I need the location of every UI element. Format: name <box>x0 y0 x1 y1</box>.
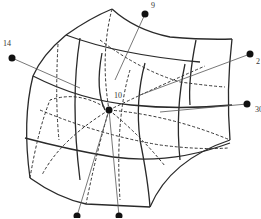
node-10-label: 10 <box>114 92 122 100</box>
node-10-dot <box>106 107 113 114</box>
node-9-label: 9 <box>151 2 155 10</box>
node-30-dot <box>244 101 251 108</box>
leader-lines <box>12 14 250 216</box>
node-bottom-left-dot <box>74 213 81 219</box>
node-30-label: 30 <box>255 106 261 114</box>
node-14-label: 14 <box>3 40 11 48</box>
node-bottom-right-dot <box>116 213 123 219</box>
node-2-dot <box>247 51 254 58</box>
node-14-dot <box>9 55 16 62</box>
node-2-label: 2 <box>256 58 260 66</box>
node-9-dot <box>142 11 149 18</box>
hexahedral-element-diagram <box>0 0 261 218</box>
